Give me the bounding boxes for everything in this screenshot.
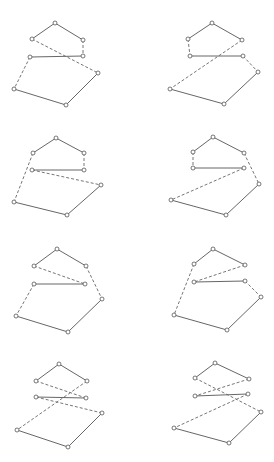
node-circle-icon [96,71,100,75]
node-circle-icon [222,102,226,106]
node-circle-icon [188,54,192,58]
node-circle-icon [225,328,229,332]
solid-edge [68,299,102,332]
node-circle-icon [227,441,231,445]
node-circle-icon [247,377,251,381]
solid-edge [195,363,215,378]
solid-edge [215,363,249,379]
panel-7 [15,362,104,449]
node-circle-icon [246,392,250,396]
node-circle-icon [28,55,32,59]
node-circle-icon [15,428,19,432]
solid-edge [14,202,67,215]
solid-edge [213,137,244,153]
solid-edge [57,249,86,266]
panel-1 [12,21,100,107]
node-circle-icon [169,198,173,202]
solid-edge [227,297,261,330]
node-circle-icon [53,21,57,25]
node-circle-icon [99,183,103,187]
node-circle-icon [54,136,58,140]
solid-edge [195,394,248,396]
node-circle-icon [211,135,215,139]
solid-edge [174,428,229,443]
node-circle-icon [34,379,38,383]
solid-edge [36,364,59,381]
node-circle-icon [66,330,70,334]
node-circle-icon [240,38,244,42]
solid-edge [33,138,56,153]
node-circle-icon [211,247,215,251]
solid-edge [67,185,101,215]
solid-edge [68,413,102,447]
node-circle-icon [14,314,18,318]
node-circle-icon [55,247,59,251]
dashed-edge [174,264,194,315]
panel-5 [14,247,104,334]
dashed-edge [86,266,102,299]
node-circle-icon [186,37,190,41]
node-circle-icon [168,87,172,91]
node-circle-icon [84,264,88,268]
node-circle-icon [32,282,36,286]
node-circle-icon [100,411,104,415]
node-circle-icon [193,394,197,398]
solid-edge [224,72,258,104]
solid-edge [193,137,213,152]
dashed-edge [194,265,245,282]
node-circle-icon [66,445,70,449]
node-circle-icon [12,87,16,91]
dashed-edge [14,153,33,202]
solid-edge [174,315,227,330]
dashed-edge [34,266,85,284]
node-circle-icon [193,376,197,380]
dashed-edge [195,379,249,396]
node-circle-icon [242,166,246,170]
node-circle-icon [30,168,34,172]
solid-edge [188,23,212,39]
dashed-edge [36,397,102,413]
node-circle-icon [64,103,68,107]
dashed-edge [14,57,30,89]
panel-3 [12,136,103,217]
dashed-edge [195,378,261,412]
solid-edge [16,316,68,332]
dashed-edge [170,40,242,89]
node-circle-icon [172,426,176,430]
node-circle-icon [242,151,246,155]
dashed-edge [17,381,87,430]
solid-edge [66,73,98,105]
node-circle-icon [172,313,176,317]
dashed-edge [32,39,98,73]
node-circle-icon [257,182,261,186]
solid-edge [213,249,245,265]
panel-6 [172,247,263,332]
node-circle-icon [81,54,85,58]
dashed-edge [245,281,261,297]
dashed-edge [16,284,34,316]
node-circle-icon [85,379,89,383]
node-circle-icon [256,70,260,74]
dashed-edge [171,168,244,200]
node-circle-icon [192,262,196,266]
solid-edge [14,89,66,105]
node-circle-icon [259,410,263,414]
node-circle-icon [210,21,214,25]
dashed-edge [174,394,248,428]
solid-edge [55,23,83,40]
solid-edge [229,412,261,443]
node-circle-icon [192,280,196,284]
panel-8 [172,361,263,445]
solid-edge [36,397,86,398]
panel-2 [168,21,260,106]
panel-4 [169,135,261,217]
node-circle-icon [12,200,16,204]
node-circle-icon [243,263,247,267]
dashed-edge [188,39,190,56]
solid-edge [17,430,68,447]
node-circle-icon [65,213,69,217]
node-circle-icon [191,150,195,154]
solid-edge [32,23,55,39]
solid-edge [34,249,57,266]
node-circle-icon [32,264,36,268]
